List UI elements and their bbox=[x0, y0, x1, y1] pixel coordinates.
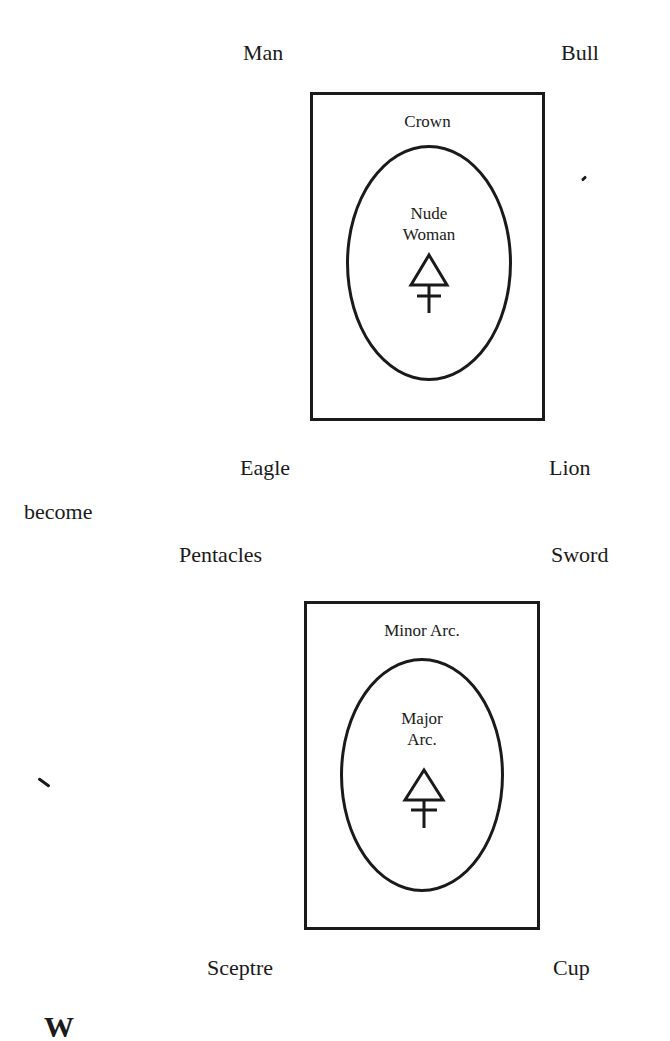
tarot-card-bottom: Minor Arc. Major Arc. bbox=[304, 601, 540, 930]
corner-label-bull: Bull bbox=[561, 42, 599, 64]
card-header-crown: Crown bbox=[313, 111, 542, 133]
corner-label-cup: Cup bbox=[553, 957, 590, 979]
oval-top: Nude Woman bbox=[346, 145, 512, 381]
oval-text-line2: Arc. bbox=[343, 729, 501, 751]
oval-bottom: Major Arc. bbox=[340, 658, 504, 892]
tarot-card-top: Crown Nude Woman bbox=[310, 92, 545, 421]
sulphur-symbol-icon bbox=[409, 253, 449, 315]
corner-label-pentacles: Pentacles bbox=[179, 544, 262, 566]
card-header-minor-arcana: Minor Arc. bbox=[307, 620, 537, 642]
corner-label-lion: Lion bbox=[549, 457, 591, 479]
corner-label-sword: Sword bbox=[551, 544, 608, 566]
stray-mark-bottom bbox=[37, 777, 50, 787]
footer-partial-text: W bbox=[44, 1012, 75, 1041]
connector-text-become: become bbox=[24, 501, 92, 523]
oval-text-line1: Nude bbox=[349, 203, 509, 225]
oval-text-line1: Major bbox=[343, 708, 501, 730]
sulphur-symbol-icon bbox=[403, 768, 445, 830]
corner-label-sceptre: Sceptre bbox=[207, 957, 273, 979]
corner-label-eagle: Eagle bbox=[240, 457, 290, 479]
oval-text-line2: Woman bbox=[349, 224, 509, 246]
stray-mark-top bbox=[581, 175, 587, 181]
corner-label-man: Man bbox=[243, 42, 283, 64]
